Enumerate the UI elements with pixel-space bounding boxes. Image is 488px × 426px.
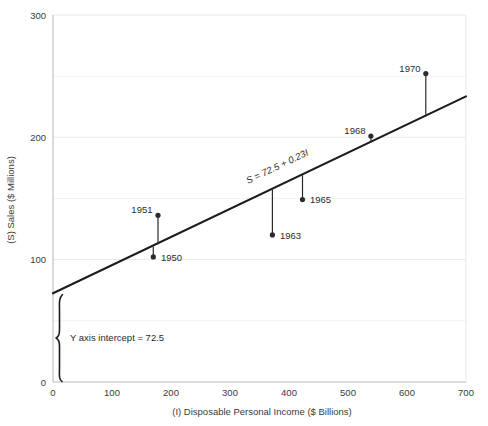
data-point-1951[interactable] (155, 213, 160, 218)
y-axis-title: (S) Sales ($ Millions) (5, 156, 16, 244)
data-point-label-1970: 1970 (399, 63, 420, 74)
data-point-label-1968: 1968 (344, 125, 365, 136)
x-tick-label-200: 200 (163, 387, 179, 398)
x-tick-label-700: 700 (458, 387, 474, 398)
x-tick-label-600: 600 (399, 387, 415, 398)
data-point-label-1951: 1951 (131, 204, 152, 215)
x-tick-label-400: 400 (281, 387, 297, 398)
data-point-1963[interactable] (270, 232, 275, 237)
scatter-chart-svg: 300 200 100 0 0 100 200 300 400 500 600 … (0, 0, 488, 426)
y-tick-label-100: 100 (30, 254, 46, 265)
y-tick-label-300: 300 (30, 10, 46, 21)
x-tick-label-100: 100 (104, 387, 120, 398)
x-axis-title: (I) Disposable Personal Income ($ Billio… (172, 406, 352, 417)
y-tick-label-200: 200 (30, 132, 46, 143)
data-point-1965[interactable] (300, 197, 305, 202)
data-point-label-1950: 1950 (161, 252, 182, 263)
data-point-1950[interactable] (151, 254, 156, 259)
chart-figure: 300 200 100 0 0 100 200 300 400 500 600 … (0, 0, 488, 426)
x-tick-label-300: 300 (222, 387, 238, 398)
data-point-label-1965: 1965 (310, 194, 331, 205)
x-tick-label-500: 500 (340, 387, 356, 398)
data-point-label-1963: 1963 (280, 230, 301, 241)
data-point-1968[interactable] (368, 133, 373, 138)
y-tick-label-0: 0 (41, 377, 46, 388)
y-intercept-annotation-label: Y axis intercept = 72.5 (70, 332, 164, 343)
data-point-1970[interactable] (423, 71, 428, 76)
x-tick-label-0: 0 (50, 387, 55, 398)
